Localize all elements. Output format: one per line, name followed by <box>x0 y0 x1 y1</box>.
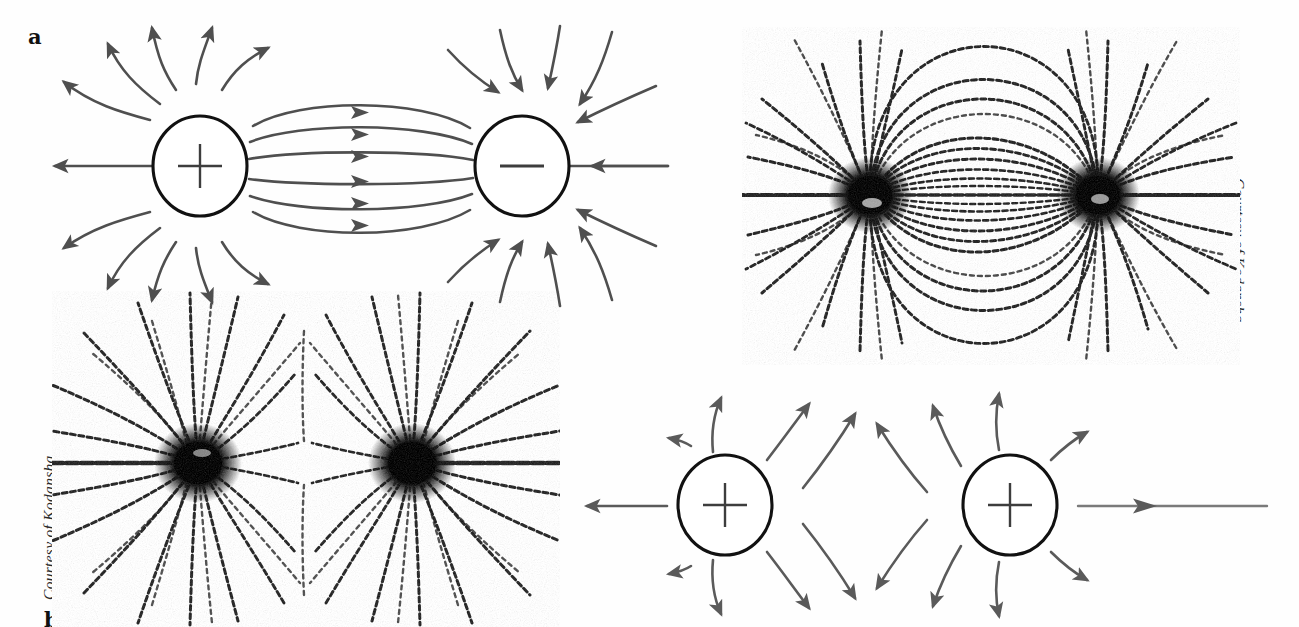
charge-positive <box>153 116 247 216</box>
field-line <box>767 552 809 608</box>
iron-filings-like-charges-photo <box>52 291 560 627</box>
field-line <box>933 546 961 606</box>
field-line <box>578 86 656 122</box>
field-line <box>669 438 691 446</box>
field-line <box>222 242 268 284</box>
dipole-field-diagram <box>0 0 700 290</box>
field-line-arrowheads-inner <box>351 106 369 232</box>
field-lines-dipole <box>55 26 668 306</box>
field-line <box>580 228 612 300</box>
field-line <box>500 30 522 90</box>
field-line <box>578 210 656 246</box>
field-line <box>152 28 176 90</box>
field-line <box>996 394 999 450</box>
field-line <box>108 228 160 288</box>
field-line <box>64 82 150 120</box>
field-line <box>877 520 927 588</box>
field-line <box>548 26 560 88</box>
field-line <box>253 210 470 233</box>
field-line <box>877 424 927 492</box>
field-line <box>803 524 855 598</box>
field-line <box>767 404 809 460</box>
field-line <box>712 398 721 452</box>
field-line <box>933 406 961 466</box>
field-line <box>64 212 150 248</box>
charge-negative <box>475 116 569 216</box>
field-line <box>580 32 612 104</box>
field-line <box>253 105 470 128</box>
field-line <box>712 560 721 614</box>
iron-filings-dipole-photo <box>742 27 1240 365</box>
field-line <box>669 566 691 574</box>
field-line <box>196 28 212 84</box>
field-line <box>1051 552 1087 580</box>
field-line <box>448 50 498 92</box>
figure-canvas: a b Courtesy of Kodansha Courtesy of Kod… <box>0 0 1299 627</box>
field-line <box>108 44 160 104</box>
field-line <box>1051 432 1087 460</box>
charge-positive-right <box>963 455 1057 555</box>
field-lines-inner-dipole <box>249 105 473 233</box>
charge-positive-left <box>678 455 772 555</box>
field-line <box>222 48 268 90</box>
field-line <box>448 240 498 282</box>
field-line <box>996 562 999 616</box>
like-charges-field-diagram <box>585 388 1299 623</box>
field-line <box>803 414 855 488</box>
